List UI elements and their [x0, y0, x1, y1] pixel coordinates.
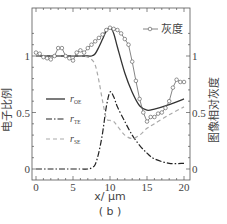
x-axis-label: x/ μm — [94, 190, 125, 203]
gray-marker — [86, 46, 90, 50]
gray-marker — [93, 40, 97, 44]
y-right-tick-label: 1 — [192, 50, 198, 62]
gray-marker — [60, 46, 64, 50]
gray-marker — [79, 49, 83, 53]
x-tick-label: 15 — [142, 181, 154, 193]
legend-label: rOE — [70, 93, 82, 105]
gray-marker — [156, 112, 160, 116]
legend-label: rTE — [70, 113, 81, 125]
legend-label: rSE — [70, 133, 81, 145]
y-left-tick-label: 0.5 — [16, 107, 30, 119]
gray-marker — [112, 27, 116, 31]
y-axis-right-label: 图像相对灰度 — [207, 77, 221, 143]
gray-marker — [75, 51, 79, 55]
x-tick-label: 20 — [179, 181, 191, 193]
gray-marker — [130, 60, 134, 64]
gray-marker — [34, 51, 38, 55]
y-right-tick-label: 0.5 — [192, 107, 206, 119]
gray-marker — [105, 28, 109, 32]
series-r-se — [36, 56, 184, 139]
figure-caption: ( b ) — [99, 205, 122, 218]
gray-marker — [123, 37, 127, 41]
series-r-te — [36, 92, 184, 169]
legend-label-gray: 灰度 — [161, 22, 183, 36]
x-tick-label: 0 — [33, 181, 39, 193]
gray-marker — [167, 99, 171, 103]
gray-marker — [68, 56, 72, 60]
gray-marker — [145, 120, 149, 124]
gray-marker — [175, 78, 179, 82]
gray-marker — [71, 59, 75, 63]
gray-marker — [53, 54, 57, 58]
gray-marker — [49, 58, 53, 62]
y-right-tick-label: 0 — [192, 163, 198, 175]
chart: 0510152000.5100.51 rOErTErSE灰度 x/ μm ( b… — [0, 0, 227, 224]
gray-marker — [45, 56, 49, 60]
gray-marker — [153, 115, 157, 119]
gray-marker — [127, 43, 131, 47]
x-tick-label: 5 — [70, 181, 76, 193]
gray-marker — [138, 97, 142, 101]
gray-marker — [116, 28, 120, 32]
gray-marker — [149, 115, 153, 119]
gray-marker — [38, 52, 42, 56]
gray-marker — [134, 79, 138, 83]
gray-marker — [101, 33, 105, 37]
gray-marker — [56, 46, 60, 50]
gray-marker — [119, 32, 123, 36]
gray-marker — [179, 80, 183, 84]
y-left-tick-label: 0 — [25, 163, 31, 175]
y-left-tick-label: 1 — [25, 50, 31, 62]
y-axis-left-label: 电子比例 — [0, 88, 14, 132]
gray-marker — [108, 26, 112, 30]
gray-marker — [97, 36, 101, 40]
gray-marker — [64, 54, 68, 58]
gray-marker — [164, 106, 168, 110]
plot-area — [34, 26, 186, 169]
series-r-oe — [36, 28, 184, 111]
gray-marker — [82, 51, 86, 55]
gray-marker — [142, 111, 146, 115]
gray-marker — [171, 86, 175, 90]
gray-marker — [160, 111, 164, 115]
legend: rOErTErSE灰度 — [46, 22, 183, 145]
gray-marker — [182, 80, 186, 84]
gray-marker — [42, 55, 46, 59]
gray-marker — [90, 43, 94, 47]
